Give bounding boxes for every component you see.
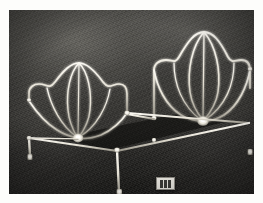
- leg-front-center: [117, 150, 119, 192]
- placard-mark-2: [164, 180, 167, 188]
- photograph-print: III: [9, 10, 254, 194]
- placard-mark-1: [160, 180, 163, 188]
- headboard-center-rosette: [197, 116, 209, 126]
- iron-bedstead-illustration: [9, 10, 254, 194]
- placard-mark-3: [168, 180, 171, 188]
- leg-front-left: [29, 138, 30, 156]
- screenshot-root: III Antique Ornamental Iron Bedstead Orn…: [0, 0, 263, 203]
- headboard-right-joint: [248, 67, 253, 71]
- headboard: [154, 27, 250, 121]
- floor-number-placard: III: [156, 177, 175, 190]
- footboard-center-rosette: [73, 134, 84, 143]
- footboard: [29, 59, 127, 138]
